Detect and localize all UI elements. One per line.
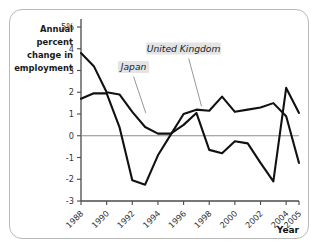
y-tick-label: 4 bbox=[69, 44, 74, 54]
y-tick-label: 2 bbox=[69, 87, 74, 97]
callout-leader-line bbox=[134, 77, 146, 113]
employment-line-chart: Annual percent change in employment 5%43… bbox=[10, 10, 310, 240]
x-axis-ticks: 1988199019921994199619982000200220042005 bbox=[64, 201, 304, 230]
x-tick-label: 1996 bbox=[166, 208, 188, 230]
chart-card: Annual percent change in employment 5%43… bbox=[9, 9, 309, 239]
y-axis-title-line-3: change in bbox=[27, 50, 73, 60]
y-tick-label: -2 bbox=[66, 174, 74, 184]
x-tick-label: 2002 bbox=[243, 208, 265, 230]
x-tick-label: 1988 bbox=[64, 208, 86, 230]
y-axis-title-line-4: employment bbox=[14, 63, 73, 73]
series-label-japan: Japan bbox=[119, 61, 147, 72]
x-tick-label: 2000 bbox=[217, 208, 239, 230]
x-tick-label: 1998 bbox=[192, 208, 214, 230]
series-label-united-kingdom: United Kingdom bbox=[147, 43, 221, 54]
y-tick-label: -3 bbox=[66, 196, 74, 206]
y-tick-label: -1 bbox=[66, 153, 74, 163]
series-layer bbox=[81, 53, 299, 185]
callout-leader-line bbox=[189, 59, 202, 107]
y-axis-title-line-2: percent bbox=[37, 37, 73, 47]
y-tick-label: 0 bbox=[69, 131, 74, 141]
y-tick-label: 1 bbox=[69, 109, 74, 119]
chart-plot-area: Annual percent change in employment 5%43… bbox=[10, 10, 310, 240]
series-line-japan bbox=[81, 53, 299, 181]
x-axis-title: Year bbox=[276, 225, 300, 235]
series-annotations: JapanUnited Kingdom bbox=[118, 42, 221, 112]
y-tick-label: 3 bbox=[69, 66, 74, 76]
x-tick-label: 1990 bbox=[89, 208, 111, 230]
y-tick-label: 5% bbox=[61, 22, 74, 32]
x-tick-label: 1992 bbox=[115, 208, 137, 230]
x-tick-label: 1994 bbox=[141, 208, 163, 230]
